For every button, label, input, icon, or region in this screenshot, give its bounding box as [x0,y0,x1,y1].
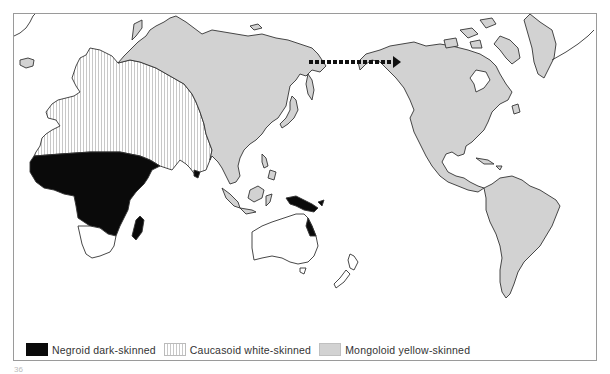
iceland [20,58,34,68]
java [240,208,256,214]
arctic-island-4 [470,40,482,48]
striped-swatch-icon [164,343,186,356]
greenland [524,14,556,78]
legend-item-mongoloid: Mongoloid yellow-skinned [319,343,470,356]
grey-swatch-icon [319,343,341,356]
newfoundland [512,104,520,114]
new-guinea [286,196,318,212]
legend-label: Caucasoid white-skinned [190,344,311,356]
greenland-east [552,30,594,60]
map-legend: Negroid dark-skinned Caucasoid white-ski… [26,343,478,356]
new-britain [318,200,324,206]
greenland-west-coast [14,14,35,36]
black-swatch-icon [26,343,48,356]
hispaniola [496,166,502,170]
tasmania [300,268,306,274]
cuba [476,158,494,164]
madagascar [132,216,144,240]
legend-label: Negroid dark-skinned [52,344,156,356]
new-zealand-south [334,270,350,288]
borneo [248,186,264,202]
philippines-south [268,170,276,180]
legend-item-negroid: Negroid dark-skinned [26,343,156,356]
mongoloid-south-america [484,176,560,298]
novaya-zemlya [132,20,142,40]
sumatra [222,188,240,208]
severnaya-zemlya [250,24,262,30]
legend-item-caucasoid: Caucasoid white-skinned [164,343,311,356]
mongoloid-north-america [358,42,512,192]
legend-label: Mongoloid yellow-skinned [345,344,470,356]
page-number: 36 [14,365,23,374]
kamchatka [306,74,314,100]
arctic-island-2 [480,18,496,28]
new-zealand-north [348,254,358,270]
arctic-island-1 [460,28,478,38]
sulawesi [266,194,272,206]
philippines [262,154,268,168]
world-map [0,0,610,374]
arctic-island-3 [444,38,458,48]
baffin-island [494,36,520,64]
